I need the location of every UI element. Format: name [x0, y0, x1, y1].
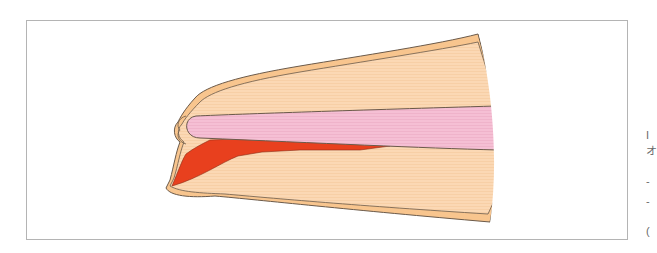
edge-text-fragment: - — [646, 176, 650, 187]
edge-text-fragment: オ — [646, 146, 657, 157]
edge-text-fragment: - — [646, 196, 650, 207]
edge-text-fragment: I — [646, 130, 649, 141]
edge-text-fragment: ( — [646, 226, 650, 237]
